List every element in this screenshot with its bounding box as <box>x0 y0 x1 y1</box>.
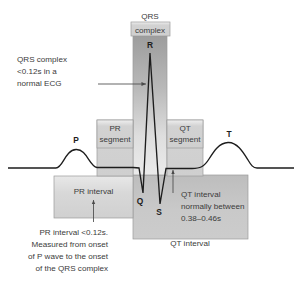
qrs-annotation: QRS complex <0.12s in a normal ECG <box>17 55 67 88</box>
pr-segment-box: PR segment <box>97 120 133 148</box>
pr-segment-line1: PR <box>109 124 120 133</box>
wave-label-r: R <box>147 40 153 50</box>
qt-note-line-2: normally between <box>181 202 244 211</box>
pr-note-line-2: Measured from onset <box>32 240 109 249</box>
qt-note-line-3: 0.38–0.46s <box>181 214 221 223</box>
pr-note-line-3: of P wave to the onset <box>28 252 109 261</box>
ecg-diagram: PR segment QT segment QRS complex PR int… <box>0 0 302 281</box>
pr-note-line-4: of the QRS complex <box>36 264 108 273</box>
pr-segment-line2: segment <box>99 135 131 144</box>
qt-note-line-1: QT interval <box>181 190 221 199</box>
wave-label-s: S <box>156 207 162 217</box>
pr-note-line-1: PR interval <0.12s. <box>39 228 108 237</box>
qrs-note-line-1: QRS complex <box>17 55 67 64</box>
pr-interval-label: PR interval <box>74 187 114 196</box>
wave-label-q: Q <box>137 196 144 206</box>
qrs-note-line-2: <0.12s in a <box>17 67 57 76</box>
qt-segment-line1: QT <box>179 124 190 133</box>
qt-segment-line2: segment <box>169 135 201 144</box>
qt-segment-box: QT segment <box>167 120 203 148</box>
qrs-note-line-3: normal ECG <box>17 79 62 88</box>
qrs-complex-line2: complex <box>135 26 165 35</box>
qt-interval-label: QT interval <box>170 239 210 248</box>
ecg-diagram-canvas: PR segment QT segment QRS complex PR int… <box>0 0 302 281</box>
wave-label-t: T <box>226 129 232 139</box>
wave-label-p: P <box>73 135 79 145</box>
pr-annotation: PR interval <0.12s. Measured from onset … <box>28 228 109 273</box>
qrs-complex-line1: QRS <box>141 12 159 21</box>
